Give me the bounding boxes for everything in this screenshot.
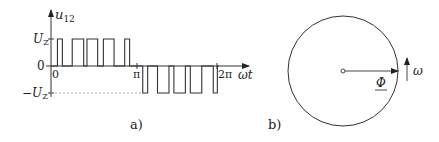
x-tick-label-0: 0 bbox=[52, 68, 59, 81]
flux-vector-label: Φ bbox=[376, 76, 386, 90]
panel-b-caption: b) bbox=[268, 117, 281, 132]
neg-uz-label: −UZ bbox=[22, 86, 48, 101]
panel-b: Φ ω b) bbox=[268, 16, 423, 132]
rotation-label: ω bbox=[413, 64, 423, 78]
center-point bbox=[341, 69, 345, 73]
x-tick-label-pi: π bbox=[133, 68, 140, 81]
y-axis-label: u12 bbox=[55, 7, 75, 24]
x-axis-label: ωt bbox=[238, 68, 253, 82]
panel-a-caption: a) bbox=[130, 117, 143, 132]
uz-label: UZ bbox=[33, 32, 49, 47]
zero-level-label: 0 bbox=[37, 59, 45, 73]
x-tick-label-2pi: 2π bbox=[218, 68, 232, 81]
figure: u12 UZ 0 −UZ 0 π 2π ωt a) Φ ω b) bbox=[0, 0, 439, 142]
panel-a: u12 UZ 0 −UZ 0 π 2π ωt a) bbox=[22, 7, 253, 132]
